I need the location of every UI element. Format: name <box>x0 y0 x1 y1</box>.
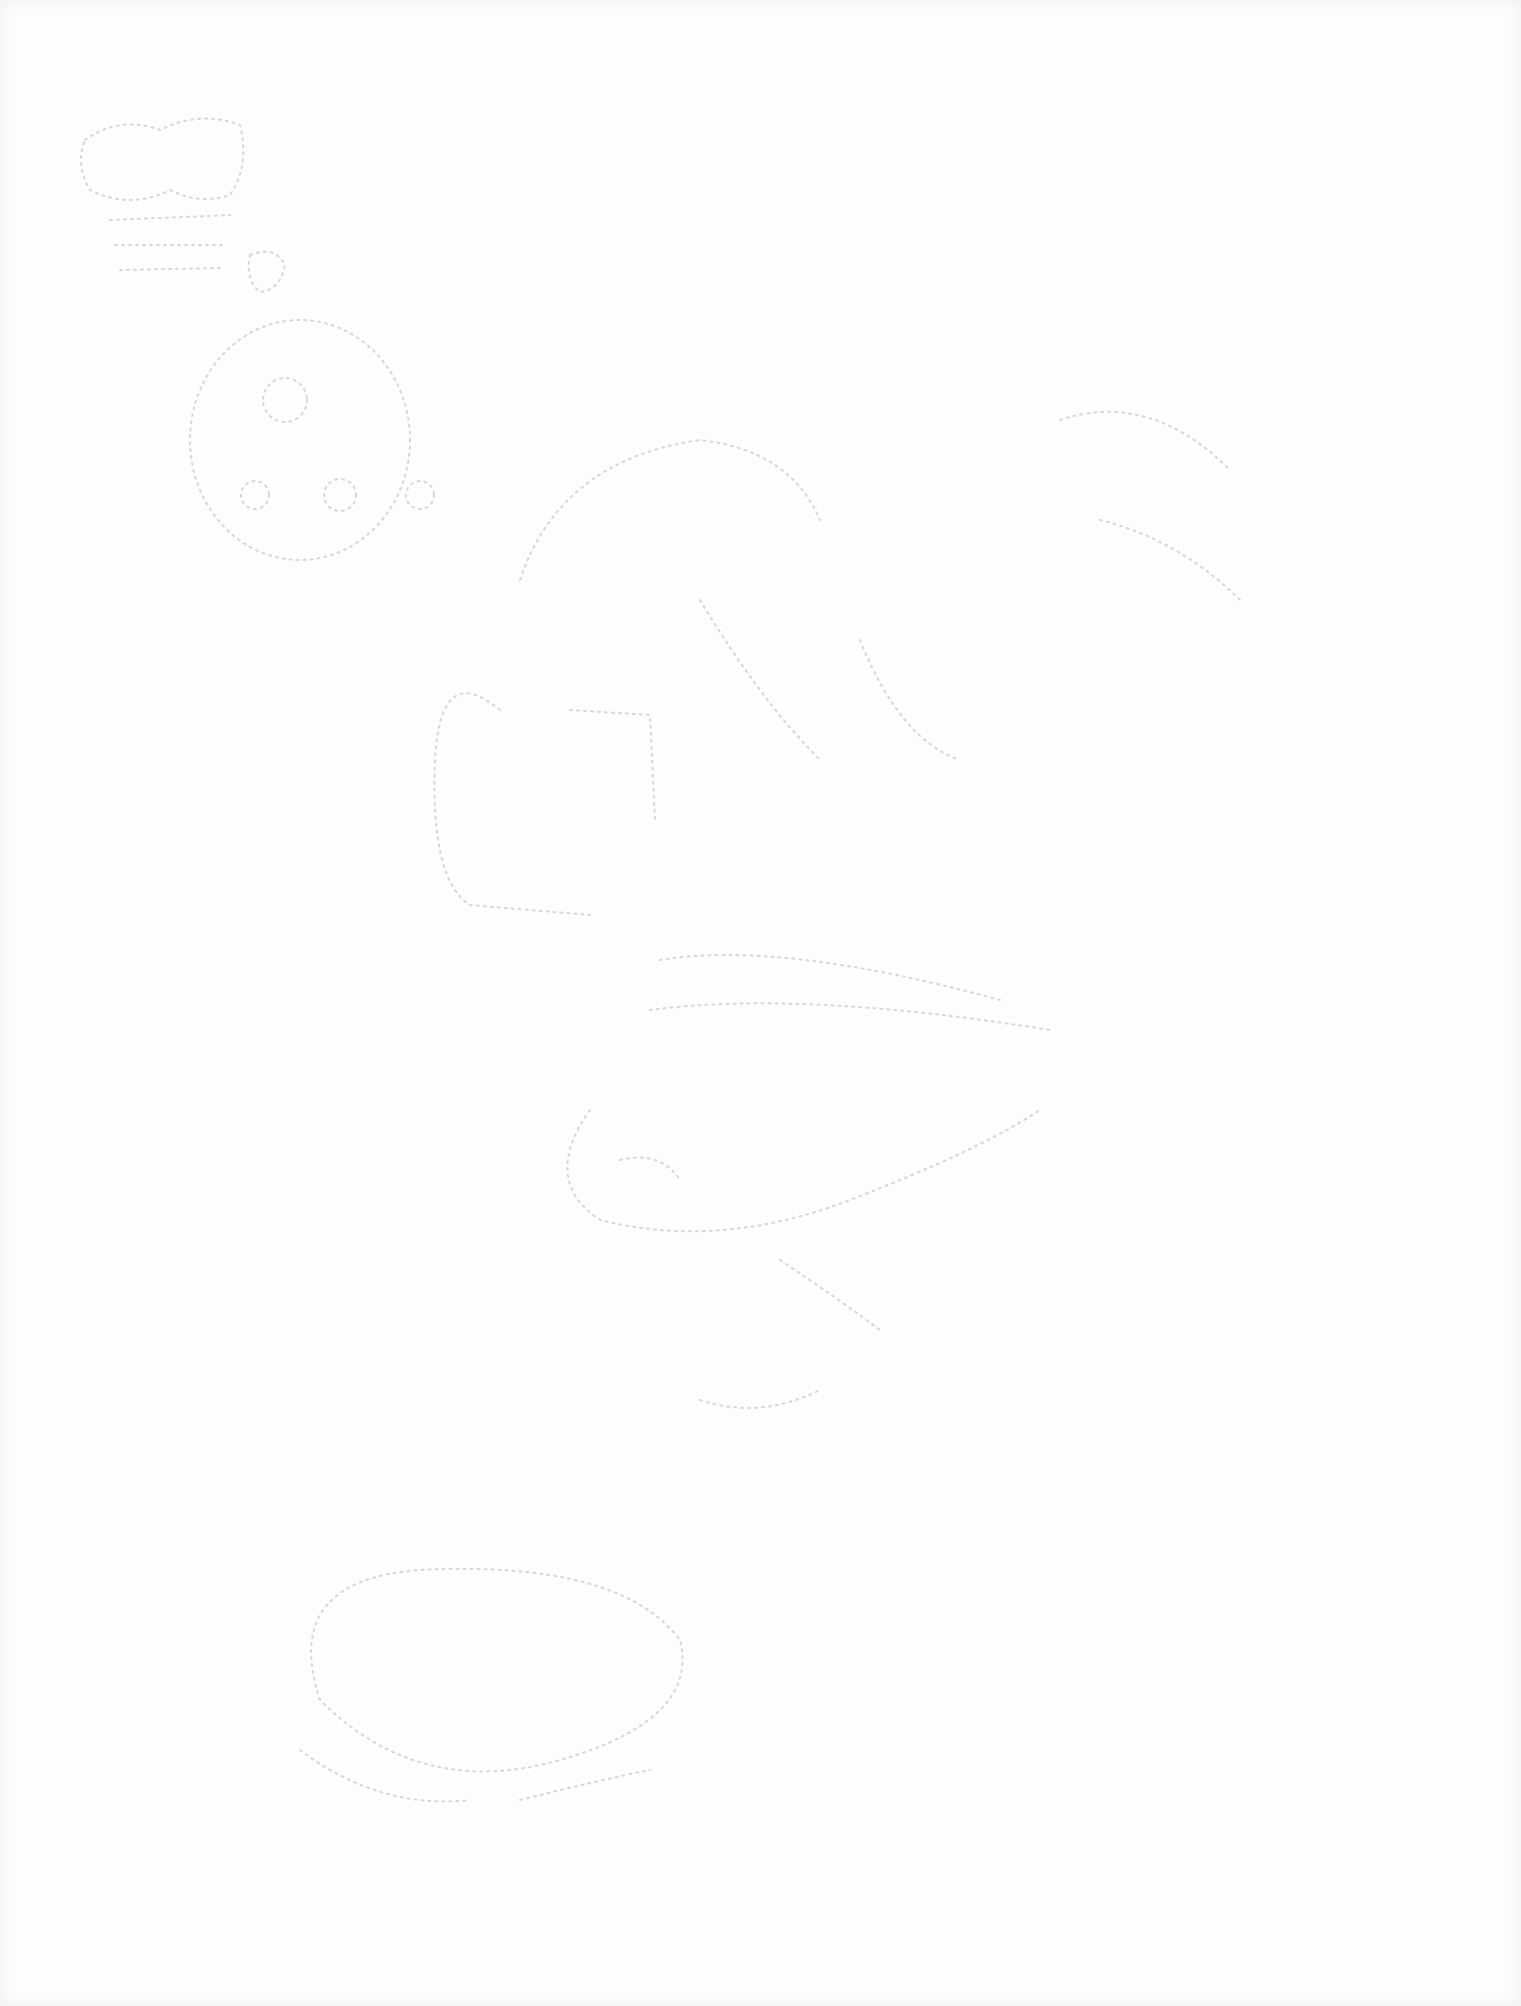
lower-figure <box>300 1569 683 1802</box>
pencil-sketch <box>0 0 1521 2006</box>
corner-doodle <box>81 119 285 292</box>
paper-page <box>0 0 1521 2006</box>
main-figure <box>434 412 1240 1408</box>
circle-figure <box>190 320 434 560</box>
